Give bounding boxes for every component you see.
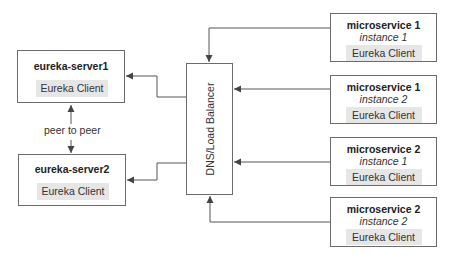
peer-to-peer-label: peer to peer: [44, 124, 101, 136]
microservice-1-instance-1-box: microservice 1 instance 1 Eureka Client: [330, 13, 437, 62]
server-title: eureka-server2: [19, 163, 125, 175]
instance-label: instance 2: [331, 215, 436, 227]
load-balancer-box: DNS/Load Balancer: [186, 63, 233, 195]
instance-label: instance 1: [331, 155, 436, 167]
microservice-2-instance-1-box: microservice 2 instance 1 Eureka Client: [330, 137, 437, 186]
instance-label: instance 2: [331, 93, 436, 105]
microservice-1-instance-2-box: microservice 1 instance 2 Eureka Client: [330, 75, 437, 124]
instance-label: instance 1: [331, 31, 436, 43]
load-balancer-label: DNS/Load Balancer: [204, 83, 216, 176]
microservice-title: microservice 2: [331, 143, 436, 155]
eureka-client-tag: Eureka Client: [346, 229, 422, 245]
eureka-client-tag: Eureka Client: [36, 80, 108, 97]
microservice-title: microservice 1: [331, 19, 436, 31]
eureka-client-tag: Eureka Client: [346, 169, 422, 185]
eureka-client-tag: Eureka Client: [346, 107, 422, 123]
microservice-title: microservice 2: [331, 203, 436, 215]
eureka-client-tag: Eureka Client: [37, 183, 109, 200]
microservice-title: microservice 1: [331, 81, 436, 93]
microservice-2-instance-2-box: microservice 2 instance 2 Eureka Client: [330, 197, 437, 247]
eureka-server1-box: eureka-server1 Eureka Client: [17, 50, 125, 103]
eureka-client-tag: Eureka Client: [346, 45, 422, 61]
server-title: eureka-server1: [18, 60, 124, 72]
eureka-server2-box: eureka-server2 Eureka Client: [18, 154, 126, 206]
